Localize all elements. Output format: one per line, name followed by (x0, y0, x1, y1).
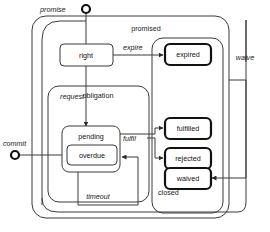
transition-waive-label: waive (236, 53, 254, 62)
transition-timeout-label: timeout (86, 192, 111, 201)
transition-commit-label: commit (3, 139, 27, 148)
state-expired-label: expired (176, 50, 200, 59)
transition-request-label: request (60, 92, 85, 101)
region-promised-label: promised (131, 24, 161, 33)
state-pending-label: pending (78, 132, 104, 141)
state-overdue-label: overdue (79, 151, 105, 160)
state-right-label: right (79, 51, 93, 60)
region-closed-label: closed (158, 188, 179, 197)
initial-state-promise[interactable] (82, 5, 90, 13)
state-fulfilled-label: fulfilled (177, 124, 199, 133)
transition-fulfil-label: fulfil (123, 134, 136, 143)
state-rejected-label: rejected (175, 154, 201, 163)
state-diagram: right pending overdue expired fulfilled … (0, 0, 270, 232)
region-obligation-label: obligation (83, 91, 114, 100)
diagram-canvas: right pending overdue expired fulfilled … (0, 0, 270, 232)
transition-promise-label: promise (39, 5, 66, 14)
transition-expire-label: expire (123, 43, 143, 52)
initial-state-commit[interactable] (11, 151, 19, 159)
state-waived-label: waived (176, 174, 199, 183)
